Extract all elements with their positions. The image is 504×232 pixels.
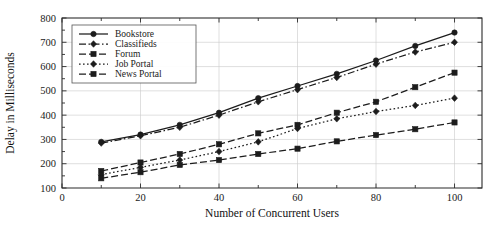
data-point bbox=[373, 99, 378, 104]
series-line bbox=[101, 98, 454, 175]
x-tick-labels: 020406080100 bbox=[59, 192, 462, 203]
x-axis-label: Number of Concurrent Users bbox=[205, 207, 339, 219]
x-tick-label: 60 bbox=[292, 192, 303, 203]
x-tick-label: 40 bbox=[214, 192, 225, 203]
x-tick-label: 20 bbox=[135, 192, 146, 203]
legend-label: Forum bbox=[115, 49, 141, 59]
data-point bbox=[256, 151, 261, 156]
y-axis-label: Delay in Milliseconds bbox=[4, 52, 17, 154]
y-tick-label: 100 bbox=[40, 183, 56, 194]
data-point bbox=[99, 176, 104, 181]
legend-sample-marker bbox=[91, 51, 96, 56]
legend-label: Bookstore bbox=[115, 29, 154, 39]
x-tick-label: 80 bbox=[371, 192, 382, 203]
data-point bbox=[216, 142, 221, 147]
chart-legend: BookstoreClassifiedsForumJob PortalNews … bbox=[72, 25, 196, 83]
data-point bbox=[412, 49, 418, 56]
data-point bbox=[452, 39, 458, 46]
y-tick-label: 700 bbox=[40, 37, 56, 48]
data-point bbox=[413, 85, 418, 90]
data-point bbox=[256, 131, 261, 136]
legend-sample-marker bbox=[91, 71, 96, 76]
data-point bbox=[177, 151, 182, 156]
data-point bbox=[177, 162, 182, 167]
data-point bbox=[413, 127, 418, 132]
data-point bbox=[373, 132, 378, 137]
data-point bbox=[334, 110, 339, 115]
data-point bbox=[452, 70, 457, 75]
x-tick-label: 0 bbox=[59, 192, 64, 203]
data-point bbox=[452, 30, 457, 35]
data-point bbox=[452, 120, 457, 125]
legend-label: Classifieds bbox=[115, 39, 157, 49]
data-point bbox=[138, 170, 143, 175]
legend-sample-marker bbox=[91, 31, 96, 36]
legend-label: News Portal bbox=[115, 69, 162, 79]
y-tick-label: 300 bbox=[40, 134, 56, 145]
delay-vs-concurrent-users-chart: 020406080100 100200300400500600700800 Bo… bbox=[0, 0, 504, 232]
data-point bbox=[373, 108, 379, 115]
y-tick-label: 600 bbox=[40, 61, 56, 72]
data-point bbox=[295, 146, 300, 151]
series-forum bbox=[99, 70, 457, 174]
series-job-portal bbox=[98, 95, 457, 178]
y-tick-labels: 100200300400500600700800 bbox=[40, 13, 56, 194]
data-point bbox=[216, 157, 221, 162]
data-point bbox=[452, 95, 458, 102]
data-point bbox=[413, 43, 418, 48]
data-point bbox=[334, 115, 340, 122]
data-point bbox=[216, 148, 222, 155]
y-tick-label: 800 bbox=[40, 13, 56, 24]
series-line bbox=[101, 73, 454, 171]
y-tick-label: 200 bbox=[40, 158, 56, 169]
chart-canvas: 020406080100 100200300400500600700800 Bo… bbox=[0, 0, 504, 232]
data-point bbox=[334, 139, 339, 144]
data-point bbox=[412, 102, 418, 109]
y-tick-label: 400 bbox=[40, 110, 56, 121]
x-tick-label: 100 bbox=[447, 192, 463, 203]
legend-label: Job Portal bbox=[115, 59, 154, 69]
y-tick-label: 500 bbox=[40, 85, 56, 96]
